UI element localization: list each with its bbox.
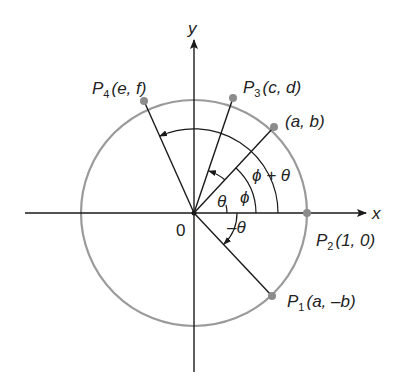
p3-label: P3(c, d)	[243, 78, 301, 99]
arc-theta	[209, 171, 225, 180]
ab-label: (a, b)	[285, 112, 325, 131]
radius-p3	[194, 98, 233, 213]
y-axis-label: y	[187, 19, 198, 38]
theta-label: θ	[217, 192, 227, 211]
radius-p4	[144, 101, 194, 213]
p4-label: P4(e, f)	[92, 79, 146, 100]
phi-plus-theta-label: ϕ + θ	[252, 166, 291, 185]
origin-dot	[192, 211, 197, 216]
point-p1	[268, 292, 276, 300]
point-ab	[270, 123, 278, 131]
phi-label: ϕ	[240, 188, 249, 207]
point-p2	[303, 209, 311, 217]
p1-label: P1(a, –b)	[287, 292, 356, 313]
x-axis-label: x	[371, 204, 381, 223]
point-p4	[140, 97, 148, 105]
point-p3	[229, 94, 237, 102]
origin-label: 0	[176, 221, 185, 240]
unit-circle-diagram: y x 0 P4(e, f) P3(c, d) (a, b) P2(1, 0) …	[0, 0, 399, 383]
neg-theta-label: –θ	[226, 218, 246, 237]
p2-label: P2(1, 0)	[316, 231, 375, 252]
